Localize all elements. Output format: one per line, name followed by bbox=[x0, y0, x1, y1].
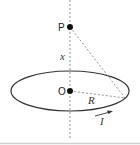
current-loop-diagram: P O x R I bbox=[0, 0, 140, 145]
point-p-dot bbox=[67, 24, 73, 30]
radius-line bbox=[70, 91, 125, 98]
label-r: R bbox=[87, 94, 95, 106]
label-i: I bbox=[99, 115, 105, 127]
label-p: P bbox=[58, 22, 65, 33]
label-x: x bbox=[59, 50, 65, 62]
point-o-dot bbox=[67, 88, 73, 94]
current-arrowhead-icon bbox=[107, 111, 113, 115]
line-p-to-loop bbox=[70, 27, 125, 98]
label-o: O bbox=[58, 86, 66, 97]
